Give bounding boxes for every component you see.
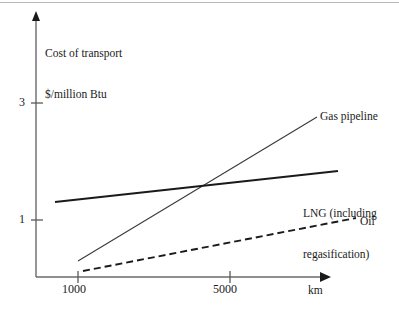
y-tick-label-3: 3 — [19, 96, 25, 110]
series-line-lng — [55, 171, 338, 202]
series-label-oil: Oil — [360, 215, 375, 229]
series-label-lng-line-2: regasification) — [303, 248, 377, 262]
x-tick-label-5000: 5000 — [213, 283, 237, 297]
y-axis-title: Cost of transport $/million Btu — [45, 20, 122, 128]
y-axis-title-line-1: Cost of transport — [45, 47, 122, 61]
x-tick-label-1000: 1000 — [62, 283, 86, 297]
y-axis-arrowhead — [32, 11, 40, 21]
series-line-gas-pipeline — [78, 117, 317, 261]
series-label-gas-pipeline: Gas pipeline — [320, 110, 378, 124]
y-axis-title-line-2: $/million Btu — [45, 88, 122, 102]
y-tick-label-1: 1 — [19, 213, 25, 227]
chart-figure: Cost of transport $/million Btu 3 1 1000… — [0, 0, 399, 312]
series-label-lng: LNG (including regasification) — [303, 180, 377, 288]
